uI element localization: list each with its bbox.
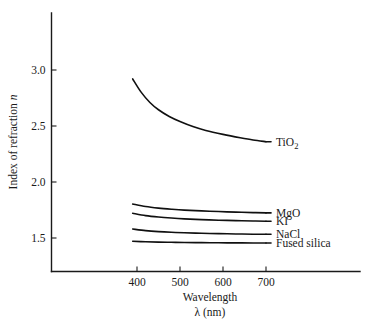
curve-mgo [133, 204, 266, 213]
figure-dispersion-curves: 1.52.02.53.0 400500600700 TiO2MgOKINaClF… [0, 0, 384, 328]
x-axis-title: Wavelength [183, 291, 238, 304]
curve-fused-silica [133, 241, 266, 243]
x-axis-ticks: 400500600700 [128, 267, 275, 288]
curve-nacl [133, 229, 266, 234]
y-tick-label: 2.0 [31, 176, 46, 188]
series-label-tio2: TiO2 [276, 136, 298, 151]
x-tick-label: 400 [128, 276, 146, 288]
x-tick-label: 600 [214, 276, 232, 288]
x-axis-title-units: λ (nm) [195, 306, 226, 319]
curve-ki [133, 213, 266, 221]
x-tick-label: 700 [257, 276, 275, 288]
curve-tio2 [133, 79, 266, 142]
series-label-ki: KI [276, 215, 288, 227]
series-label-fused-silica: Fused silica [276, 237, 331, 249]
series-labels: TiO2MgOKINaClFused silica [266, 136, 331, 249]
y-tick-label: 2.5 [31, 120, 46, 132]
y-axis-title: Index of refraction n [7, 94, 19, 189]
chart-canvas: 1.52.02.53.0 400500600700 TiO2MgOKINaClF… [0, 0, 384, 328]
y-tick-label: 3.0 [31, 64, 46, 76]
y-tick-label: 1.5 [31, 232, 46, 244]
y-axis-ticks: 1.52.02.53.0 [31, 64, 56, 244]
data-curves [133, 79, 266, 243]
x-tick-label: 500 [171, 276, 189, 288]
